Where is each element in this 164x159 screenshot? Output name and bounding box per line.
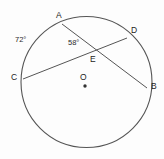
point-label-E: E: [90, 55, 96, 64]
point-label-D: D: [131, 26, 137, 35]
center-point-dot: [83, 84, 86, 87]
point-label-A: A: [56, 11, 62, 20]
geometry-figure: A D C B E O 72° 58°: [0, 0, 164, 159]
point-label-C: C: [11, 73, 17, 82]
point-label-B: B: [151, 82, 157, 91]
angle-label-72: 72°: [15, 36, 26, 44]
angle-label-58: 58°: [68, 39, 79, 47]
center-label-O: O: [80, 73, 87, 82]
circle-outline: [21, 17, 152, 148]
